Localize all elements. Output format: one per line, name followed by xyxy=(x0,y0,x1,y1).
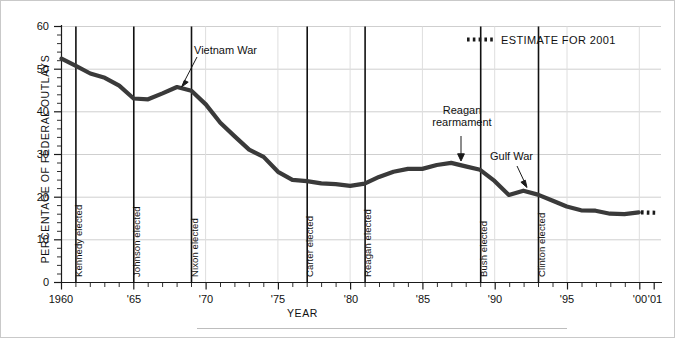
event-label-johnson-elected: Johnson elected xyxy=(131,206,142,277)
y-axis-major-ticks xyxy=(54,27,61,283)
y-tick-label-0: 0 xyxy=(21,276,49,288)
x-axis-major-ticks xyxy=(62,283,655,290)
reagan-rearmament-arrow-icon xyxy=(458,136,465,161)
x-tick-label-1965: '65 xyxy=(114,293,154,305)
y-tick-label-30: 30 xyxy=(21,148,49,160)
y-tick-label-50: 50 xyxy=(21,63,49,75)
gulf-war-arrow-icon xyxy=(517,166,527,188)
chart-frame: PERCENTAGE OF FEDERAL OUTLAYS YEAR 60 50… xyxy=(0,0,675,338)
annotation-vietnam-war: Vietnam War xyxy=(194,44,257,56)
bottom-divider xyxy=(197,328,567,329)
x-tick-label-1990: '90 xyxy=(475,293,515,305)
chart-canvas xyxy=(1,1,676,339)
x-tick-label-1985: '85 xyxy=(403,293,443,305)
event-label-reagan-elected: Reagan elected xyxy=(362,209,373,277)
event-label-bush-elected: Bush elected xyxy=(478,221,489,277)
x-tick-label-1960: 1960 xyxy=(41,293,81,305)
event-label-nixon-elected: Nixon elected xyxy=(189,218,200,277)
x-tick-label-1970: '70 xyxy=(186,293,226,305)
y-tick-label-60: 60 xyxy=(21,20,49,32)
event-label-kennedy-elected: Kennedy elected xyxy=(73,205,84,277)
y-tick-label-10: 10 xyxy=(21,233,49,245)
y-tick-label-20: 20 xyxy=(21,191,49,203)
event-label-clinton-elected: Clinton elected xyxy=(536,213,547,277)
x-axis-title: YEAR xyxy=(287,307,318,319)
annotation-reagan-rearmament-line2: rearmament xyxy=(430,116,494,128)
x-tick-label-1980: '80 xyxy=(331,293,371,305)
vietnam-war-arrow-icon xyxy=(182,57,198,87)
x-tick-label-1975: '75 xyxy=(258,293,298,305)
annotation-reagan-rearmament: Reagan rearmament xyxy=(430,104,494,128)
annotation-gulf-war: Gulf War xyxy=(490,150,533,162)
x-tick-label-1995: '95 xyxy=(547,293,587,305)
y-tick-label-40: 40 xyxy=(21,105,49,117)
x-tick-label-2001: '01 xyxy=(635,293,675,305)
legend-estimate-label: ESTIMATE FOR 2001 xyxy=(501,34,616,46)
event-label-carter-elected: Carter elected xyxy=(304,216,315,277)
annotation-reagan-rearmament-line1: Reagan xyxy=(430,104,494,116)
